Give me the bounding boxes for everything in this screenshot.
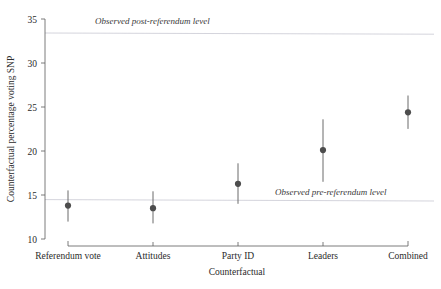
reference-lines bbox=[45, 33, 434, 201]
y-tick-label-10: 10 bbox=[28, 235, 38, 245]
data-point-group-combined[interactable] bbox=[405, 96, 411, 129]
x-axis-title: Counterfactual bbox=[209, 267, 266, 277]
x-category-label-referendum-vote: Referendum vote bbox=[35, 251, 101, 261]
x-category-label-leaders: Leaders bbox=[308, 251, 338, 261]
data-point-referendum-vote[interactable] bbox=[65, 203, 71, 209]
x-axis: Referendum vote Attitudes Party ID Leade… bbox=[35, 241, 428, 261]
post-referendum-reference-line bbox=[45, 33, 434, 34]
data-series-counterfactual-estimate bbox=[65, 96, 411, 224]
data-point-group-attitudes[interactable] bbox=[150, 191, 156, 223]
data-point-combined[interactable] bbox=[405, 109, 411, 115]
y-tick-label-15: 15 bbox=[28, 191, 38, 201]
data-point-leaders[interactable] bbox=[320, 147, 326, 153]
pre-referendum-reference-line bbox=[45, 200, 434, 201]
counterfactual-snp-vote-chart: Observed post-referendum level Observed … bbox=[0, 0, 441, 289]
post-referendum-label: Observed post-referendum level bbox=[95, 16, 210, 26]
y-tick-label-20: 20 bbox=[28, 147, 38, 157]
y-tick-label-30: 30 bbox=[28, 59, 38, 69]
x-category-label-combined: Combined bbox=[388, 251, 428, 261]
data-point-group-referendum-vote[interactable] bbox=[65, 190, 71, 221]
data-point-group-leaders[interactable] bbox=[320, 119, 326, 182]
data-point-group-party-id[interactable] bbox=[235, 163, 241, 204]
data-point-party-id[interactable] bbox=[235, 181, 241, 187]
x-category-label-attitudes: Attitudes bbox=[136, 251, 171, 261]
pre-referendum-label: Observed pre-referendum level bbox=[275, 187, 387, 197]
x-category-label-party-id: Party ID bbox=[222, 251, 255, 261]
y-axis: 10 15 20 25 30 35 bbox=[28, 15, 46, 245]
y-axis-title: Counterfactual percentage voting SNP bbox=[6, 56, 16, 202]
chart-canvas: Observed post-referendum level Observed … bbox=[0, 0, 441, 289]
data-point-attitudes[interactable] bbox=[150, 205, 156, 211]
y-tick-label-25: 25 bbox=[28, 103, 38, 113]
y-tick-label-35: 35 bbox=[28, 15, 38, 25]
